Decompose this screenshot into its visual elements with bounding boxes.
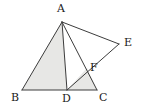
vertex-label-B: B (11, 92, 19, 103)
vertex-label-C: C (99, 92, 107, 103)
segment-AE (62, 22, 119, 44)
vertex-label-A: A (57, 3, 65, 14)
geometry-figure: A B C D E F (0, 0, 142, 110)
vertex-label-F: F (90, 62, 98, 73)
geometry-canvas (0, 0, 142, 110)
vertex-label-D: D (62, 93, 71, 104)
shaded-regions (22, 22, 97, 90)
region-ABD (22, 22, 67, 90)
vertex-label-E: E (124, 37, 132, 48)
